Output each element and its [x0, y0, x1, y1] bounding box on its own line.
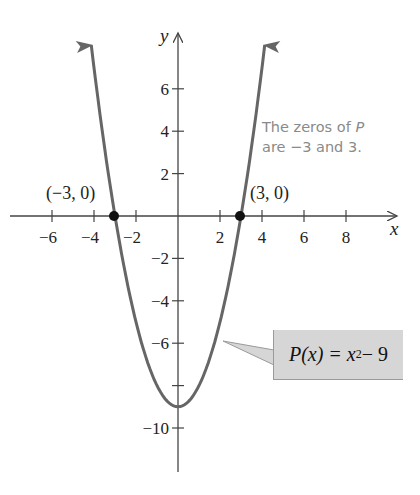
y-tick-label: −6	[151, 334, 169, 353]
x-tick-label: 8	[342, 228, 351, 247]
function-callout: P(x) = x2 − 9	[273, 330, 403, 380]
x-tick-label: −6	[39, 228, 57, 247]
note-var: P	[355, 119, 364, 135]
x-tick-label: −2	[123, 228, 141, 247]
y-tick-label: −10	[142, 419, 169, 438]
chart-canvas: −6−4−22468642−2−4−6−10 (−3, 0) (3, 0) y …	[0, 0, 420, 495]
note-line2: are −3 and 3.	[262, 137, 364, 157]
x-tick-label: 6	[300, 228, 309, 247]
x-axis-label: x	[389, 218, 399, 239]
callout-lhs: P(x) = x	[289, 343, 356, 365]
x-tick-label: 4	[258, 228, 267, 247]
y-tick-label: 6	[161, 80, 170, 99]
y-axis-label: y	[158, 25, 169, 46]
zero-label-left: (−3, 0)	[46, 183, 95, 204]
x-tick-label: −4	[81, 228, 100, 247]
y-tick-label: 4	[161, 122, 170, 141]
callout-rhs: − 9	[362, 343, 388, 366]
x-tick-label: 2	[216, 228, 225, 247]
y-tick-label: −2	[151, 249, 169, 268]
y-tick-label: −4	[151, 292, 170, 311]
zero-label-right: (3, 0)	[250, 183, 289, 204]
zero-point-left	[109, 211, 119, 221]
y-tick-label: 2	[161, 165, 170, 184]
note-line1: The zeros of	[262, 119, 355, 135]
zeros-note: The zeros of P are −3 and 3.	[262, 117, 364, 157]
callout-pointer	[223, 341, 274, 365]
zero-point-right	[235, 211, 245, 221]
